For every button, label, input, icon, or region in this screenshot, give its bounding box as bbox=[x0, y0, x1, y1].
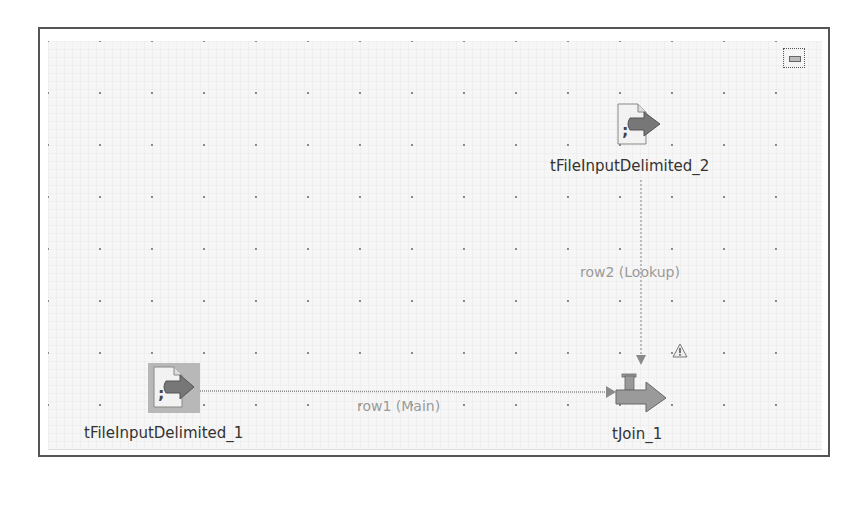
component-tjoin-1[interactable] bbox=[612, 372, 668, 416]
svg-text:;: ; bbox=[158, 384, 164, 403]
component-label-tjoin-1: tJoin_1 bbox=[612, 425, 662, 443]
warning-icon[interactable] bbox=[672, 343, 688, 359]
link-label-row2[interactable]: row2 (Lookup) bbox=[580, 264, 680, 280]
link-label-row1[interactable]: row1 (Main) bbox=[357, 398, 440, 414]
component-label-tfileinputdelimited-1: tFileInputDelimited_1 bbox=[84, 424, 243, 442]
component-label-tfileinputdelimited-2: tFileInputDelimited_2 bbox=[550, 157, 709, 175]
link-row1-main[interactable] bbox=[200, 391, 608, 392]
link-row2-arrowhead bbox=[636, 355, 646, 365]
svg-text:;: ; bbox=[622, 121, 628, 140]
file-input-delimited-icon: ; bbox=[614, 102, 666, 150]
component-tfileinputdelimited-2[interactable]: ; bbox=[614, 102, 666, 150]
component-tfileinputdelimited-1[interactable]: ; bbox=[148, 363, 200, 413]
file-input-delimited-icon: ; bbox=[148, 363, 200, 413]
join-icon bbox=[612, 372, 668, 416]
